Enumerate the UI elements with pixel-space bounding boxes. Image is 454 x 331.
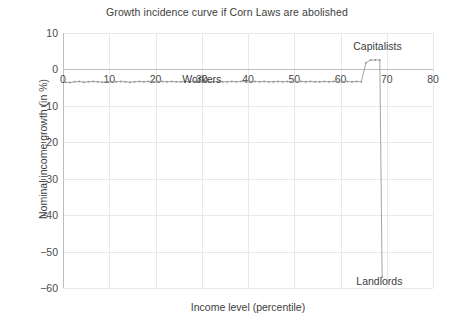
- plot-area: 100−10−20−30−40−50−60 01020304050607080 …: [63, 33, 433, 288]
- y-tick-label: −60: [40, 282, 58, 294]
- chart-title: Growth incidence curve if Corn Laws are …: [0, 6, 454, 18]
- annotation-landlords: Landlords: [356, 275, 402, 287]
- gridline-horizontal: [63, 288, 433, 289]
- growth-incidence-chart: Growth incidence curve if Corn Laws are …: [0, 0, 454, 331]
- y-tick-label: 0: [52, 63, 58, 75]
- annotation-workers: Workers: [182, 73, 221, 85]
- x-axis-label: Income level (percentile): [63, 301, 433, 313]
- y-axis-label: Nominal income growth (in %): [37, 22, 51, 277]
- series-line: [63, 33, 433, 288]
- gridline-vertical: [433, 33, 434, 288]
- annotation-capitalists: Capitalists: [353, 40, 401, 52]
